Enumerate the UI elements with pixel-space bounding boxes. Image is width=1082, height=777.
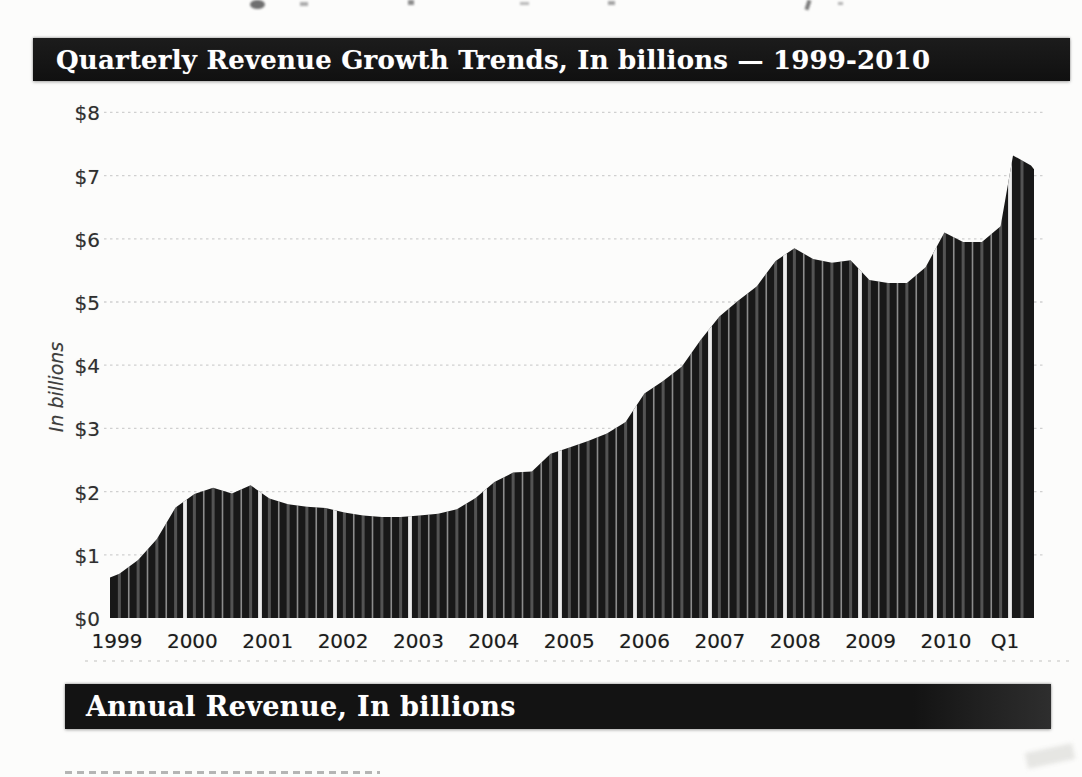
x-tick-label-2009: 2009 — [836, 629, 906, 653]
quarter-separator — [222, 85, 224, 645]
bar-highlight-stripe — [455, 85, 458, 645]
quarter-separator — [822, 85, 824, 645]
x-tick-label-2002: 2002 — [308, 629, 378, 653]
y-tick-label-2: $2 — [58, 481, 100, 505]
x-tick-label-2008: 2008 — [760, 629, 830, 653]
year-separator — [783, 85, 787, 645]
quarter-separator — [990, 85, 992, 645]
bar-highlight-stripe — [868, 85, 871, 645]
quarter-separator — [390, 85, 392, 645]
quarter-separator — [522, 85, 524, 645]
y-tick-label-1: $1 — [58, 544, 100, 568]
x-tick-label-2001: 2001 — [233, 629, 303, 653]
quarter-separator — [372, 85, 374, 645]
revenue-area — [110, 155, 1034, 618]
x-tick-label-2000: 2000 — [157, 629, 227, 653]
bar-highlight-stripe — [812, 85, 815, 645]
scan-artifact — [65, 771, 380, 774]
bar-highlight-stripe — [999, 85, 1002, 645]
bar-highlight-stripe — [287, 85, 290, 645]
x-tick-label-2006: 2006 — [610, 629, 680, 653]
bar-highlight-stripe — [943, 85, 946, 645]
quarter-separator — [503, 85, 505, 645]
quarter-separator — [972, 85, 974, 645]
y-tick-label-8: $8 — [58, 101, 100, 125]
scan-artifact — [85, 660, 1075, 662]
bar-highlight-stripe — [905, 85, 908, 645]
bar-highlight-stripe — [155, 85, 158, 645]
bar-highlight-stripe — [737, 85, 740, 645]
bar-highlight-stripe — [437, 85, 440, 645]
bar-highlight-stripe — [718, 85, 721, 645]
bar-highlight-stripe — [980, 85, 983, 645]
quarter-separator — [953, 85, 955, 645]
bar-highlight-stripe — [587, 85, 590, 645]
quarter-separator — [203, 85, 205, 645]
quarter-separator — [803, 85, 805, 645]
x-tick-label-2003: 2003 — [383, 629, 453, 653]
y-tick-label-5: $5 — [58, 291, 100, 315]
quarter-separator — [765, 85, 767, 645]
quarter-separator — [897, 85, 899, 645]
year-separator — [933, 85, 937, 645]
bar-highlight-stripe — [830, 85, 833, 645]
x-tick-label-2005: 2005 — [534, 629, 604, 653]
y-tick-label-0: $0 — [58, 607, 100, 631]
year-separator — [858, 85, 862, 645]
quarter-separator — [915, 85, 917, 645]
bar-highlight-stripe — [305, 85, 308, 645]
quarter-separator — [353, 85, 355, 645]
year-separator — [708, 85, 712, 645]
quarter-separator — [672, 85, 674, 645]
bar-highlight-stripe — [755, 85, 758, 645]
x-tick-label-2007: 2007 — [685, 629, 755, 653]
quarter-separator — [840, 85, 842, 645]
quarter-separator — [690, 85, 692, 645]
bar-highlight-stripe — [924, 85, 927, 645]
quarter-separator — [540, 85, 542, 645]
y-tick-label-7: $7 — [58, 165, 100, 189]
bar-highlight-stripe — [887, 85, 890, 645]
quarter-separator — [747, 85, 749, 645]
bar-highlight-stripe — [849, 85, 852, 645]
bar-highlight-stripe — [793, 85, 796, 645]
quarter-separator — [240, 85, 242, 645]
quarter-separator — [878, 85, 880, 645]
quarter-separator — [653, 85, 655, 645]
annual-revenue-header: Annual Revenue, In billions — [65, 684, 1051, 729]
y-tick-label-3: $3 — [58, 417, 100, 441]
annual-revenue-title: Annual Revenue, In billions — [86, 691, 516, 722]
quarter-separator — [728, 85, 730, 645]
bar-highlight-stripe — [699, 85, 702, 645]
bar-highlight-stripe — [1021, 85, 1024, 645]
y-tick-label-4: $4 — [58, 354, 100, 378]
year-separator — [1008, 85, 1012, 645]
bar-highlight-stripe — [605, 85, 608, 645]
bar-highlight-stripe — [962, 85, 965, 645]
bar-highlight-stripe — [137, 85, 140, 645]
x-tick-label-2004: 2004 — [459, 629, 529, 653]
bar-highlight-stripe — [774, 85, 777, 645]
x-tick-label-1999: 1999 — [82, 629, 152, 653]
y-tick-label-6: $6 — [58, 228, 100, 252]
x-tick-label-Q1: Q1 — [970, 629, 1040, 653]
